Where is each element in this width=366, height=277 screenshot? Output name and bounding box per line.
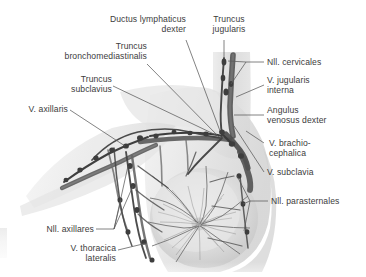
label-nll-cervicales: Nll. cervicales <box>267 57 363 67</box>
page-edge-artifact <box>0 228 7 258</box>
node-axillary <box>126 229 131 234</box>
node-axillary <box>64 178 69 183</box>
node-axillary <box>150 257 155 262</box>
node-axillary <box>93 156 98 161</box>
node-subclavian <box>203 132 208 137</box>
node-axillary <box>134 207 139 213</box>
node-cervical <box>223 88 228 95</box>
anatomy-figure: Ductus lymphaticus dexter Truncus jugula… <box>0 0 366 277</box>
label-v-jugularis-interna: V. jugularis interna <box>267 75 363 96</box>
node-subclavian <box>187 131 192 136</box>
label-truncus-jugularis: Truncus jugularis <box>200 14 258 35</box>
label-nll-parasternales: Nll. parasternales <box>271 196 365 206</box>
label-angulus-venosus-dexter: Angulus venosus dexter <box>267 105 363 126</box>
node-cervical <box>221 75 226 81</box>
node-axillary <box>137 135 143 140</box>
label-truncus-bronchomediastinalis: Truncus bronchomediastinalis <box>47 41 147 62</box>
node-subclavian <box>153 134 158 139</box>
node-axillary <box>77 168 82 173</box>
label-truncus-subclavius: Truncus subclavius <box>42 74 112 95</box>
node-axillary <box>109 148 115 153</box>
label-nll-axillares: Nll. axillares <box>22 224 94 234</box>
node-junction <box>229 141 235 147</box>
label-v-brachiocephalica: V. brachio- cephalica <box>269 138 363 159</box>
label-v-thoracica-lateralis: V. thoracica lateralis <box>38 243 116 264</box>
label-v-axillaris: V. axillaris <box>10 104 68 114</box>
node-axillary <box>123 143 129 148</box>
node-cervical <box>222 59 227 66</box>
node-junction <box>238 153 244 158</box>
label-v-subclavia: V. subclavia <box>267 167 363 177</box>
label-ductus-lymphaticus-dexter: Ductus lymphaticus dexter <box>88 14 186 35</box>
node-axillary <box>127 163 132 169</box>
node-parasternal <box>245 229 250 234</box>
node-subclavian <box>172 130 177 135</box>
